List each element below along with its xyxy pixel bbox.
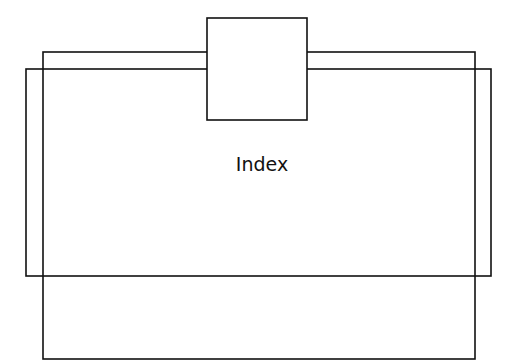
top-tab-box xyxy=(207,18,307,120)
diagram-canvas: Index xyxy=(0,0,516,361)
index-label: Index xyxy=(236,153,288,175)
